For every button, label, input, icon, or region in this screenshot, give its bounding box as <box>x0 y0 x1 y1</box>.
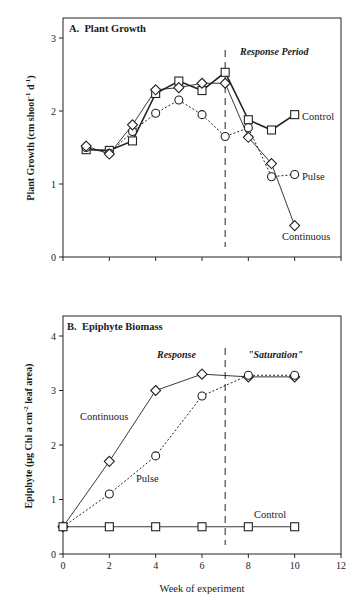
panel-a-marker-diamond <box>290 221 300 231</box>
panel-b-marker-diamond <box>104 456 114 466</box>
panel-b-marker-circle <box>198 392 206 400</box>
panel-b-marker-square <box>198 523 206 531</box>
panel-a-series <box>81 68 300 230</box>
panel-b-marker-square <box>152 523 160 531</box>
figure: A. Plant Growth Response Period 0123 Con… <box>0 0 360 613</box>
panel-b-y-axis-label: Epiphyte (µg Chl a cm-2 leaf area) <box>22 364 35 509</box>
panel-b-x-tick-label: 10 <box>290 560 300 571</box>
panel-a-marker-square <box>221 68 229 76</box>
panel-a-marker-square <box>129 137 137 145</box>
panel-b-y-tick-label: 1 <box>51 494 56 505</box>
panel-a-marker-circle <box>291 171 299 179</box>
panel-b-x-tick-label: 4 <box>153 560 158 571</box>
panel-a-y-tick-label: 2 <box>51 106 56 117</box>
panel-b-y-tick-label: 3 <box>51 385 56 396</box>
panel-a-y-tick-label: 0 <box>51 252 56 263</box>
panel-b-x-tick-label: 12 <box>336 560 346 571</box>
panel-a-marker-square <box>244 116 252 124</box>
panel-b-x-axis-label: Week of experiment <box>160 583 245 594</box>
panel-b-y-tick-label: 0 <box>51 549 56 560</box>
panel-b-marker-square <box>244 523 252 531</box>
panel-b-marker-square <box>105 523 113 531</box>
panel-a-label-pulse: Pulse <box>302 171 325 182</box>
panel-b-title: B. Epiphyte Biomass <box>67 321 163 332</box>
panel-a-annotation-response-period: Response Period <box>239 46 310 57</box>
panel-a-y-tick-label: 1 <box>51 179 56 190</box>
panel-b-marker-circle <box>152 452 160 460</box>
panel-a-marker-square <box>268 126 276 134</box>
panel-a-line-continuous <box>86 83 295 225</box>
panel-b-line-pulse <box>63 375 295 527</box>
panel-b-label-pulse: Pulse <box>136 473 159 484</box>
panel-b-x-tick-label: 0 <box>61 560 66 571</box>
panel-b-y-tick-label: 2 <box>51 440 56 451</box>
panel-a-plant-growth: A. Plant Growth Response Period 0123 Con… <box>24 18 341 263</box>
panel-b-x-tick-label: 8 <box>246 560 251 571</box>
panel-a-title: A. Plant Growth <box>69 23 146 34</box>
panel-a-label-continuous: Continuous <box>282 231 330 242</box>
panel-b-x-tick-label: 6 <box>200 560 205 571</box>
panel-b-marker-square <box>291 523 299 531</box>
panel-a-marker-circle <box>152 109 160 117</box>
panel-b-marker-diamond <box>197 369 207 379</box>
panel-b-x-tick-label: 2 <box>107 560 112 571</box>
panel-b-label-continuous: Continuous <box>80 411 128 422</box>
panel-b-marker-circle <box>291 371 299 379</box>
panel-a-marker-circle <box>268 173 276 181</box>
panel-b-y-tick-label: 4 <box>51 331 56 342</box>
panel-b-marker-circle <box>105 490 113 498</box>
panel-b-line-continuous <box>63 374 295 527</box>
panel-a-marker-circle <box>244 124 252 132</box>
panel-b-axes: 01234024681012 <box>51 331 346 572</box>
panel-b-annotation-saturation: "Saturation" <box>248 349 303 360</box>
panel-b-series <box>58 369 300 532</box>
panel-b-marker-square <box>59 523 67 531</box>
panel-a-line-control <box>86 72 295 150</box>
panel-a-marker-circle <box>198 111 206 119</box>
panel-b-epiphyte-biomass: B. Epiphyte Biomass Response "Saturation… <box>22 316 346 594</box>
panel-b-label-control: Control <box>254 509 286 520</box>
panel-a-marker-square <box>291 111 299 119</box>
panel-b-marker-diamond <box>151 386 161 396</box>
panel-a-line-pulse <box>86 100 295 177</box>
panel-a-y-axis-label: Plant Growth (cm shoot-1 d-1) <box>24 75 37 200</box>
panel-a-label-control: Control <box>302 111 334 122</box>
panel-b-annotation-response: Response <box>156 349 196 360</box>
panel-a-marker-circle <box>175 96 183 104</box>
panel-b-marker-circle <box>244 371 252 379</box>
panel-a-marker-circle <box>221 133 229 141</box>
panel-a-y-tick-label: 3 <box>51 33 56 44</box>
